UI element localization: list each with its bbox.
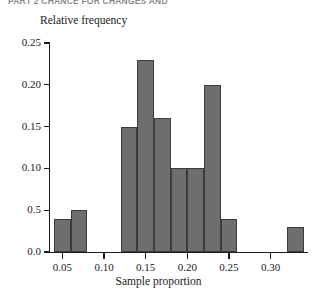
x-tick-label: 0.15 (126, 261, 166, 273)
x-tick-label: 0.20 (167, 261, 207, 273)
y-tick-label: 0.0 (7, 246, 41, 257)
histogram-bar (171, 168, 188, 252)
x-tick-label: 0.25 (209, 261, 249, 273)
histogram-bar (204, 85, 221, 252)
histogram-bar (287, 227, 304, 252)
histogram-bar (187, 168, 204, 252)
y-tick-label: 0.5 (7, 204, 41, 215)
histogram-bar (121, 127, 138, 252)
y-tick-label: 0.20 (7, 79, 41, 90)
plot-area (50, 43, 310, 252)
x-tick-label: 0.30 (251, 261, 291, 273)
histogram-bar (137, 60, 154, 252)
x-tick-label: 0.10 (84, 261, 124, 273)
x-axis-title: Sample proportion (0, 275, 317, 287)
histogram-bar (71, 210, 88, 252)
y-tick-label: 0.25 (7, 37, 41, 48)
y-axis-title: Relative frequency (40, 14, 127, 26)
histogram-bar (221, 219, 238, 252)
histogram-bar (54, 219, 71, 252)
x-tick-mark (228, 253, 229, 259)
x-tick-mark (270, 253, 271, 259)
y-tick-label: 0.10 (7, 162, 41, 173)
histogram-bar (154, 118, 171, 252)
x-tick-mark (103, 253, 104, 259)
histogram-chart: Relative frequency 0.00.50.100.150.200.2… (0, 0, 317, 292)
x-tick-mark (62, 253, 63, 259)
y-tick-label: 0.15 (7, 121, 41, 132)
x-tick-mark (145, 253, 146, 259)
x-tick-mark (187, 253, 188, 259)
x-tick-label: 0.05 (42, 261, 82, 273)
